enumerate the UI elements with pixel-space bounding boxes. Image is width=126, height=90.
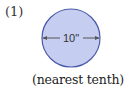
rounding-instruction: (nearest tenth) xyxy=(32,72,124,87)
diameter-label: 10" xyxy=(63,32,79,44)
